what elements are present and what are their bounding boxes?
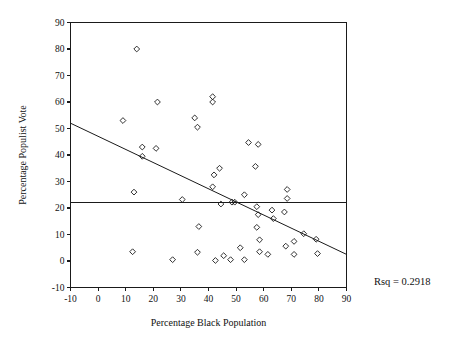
y-tick-label: 20 (55, 203, 65, 213)
data-point-marker (284, 187, 290, 193)
data-point-marker (213, 258, 219, 264)
data-point-marker (283, 243, 289, 249)
plot-frame (71, 23, 347, 288)
y-tick-label: 90 (55, 18, 65, 28)
data-point-marker (291, 251, 297, 257)
annotations-group: Rsq = 0.2918 (374, 276, 430, 287)
data-point-marker (282, 209, 288, 215)
y-tick-label: 70 (55, 71, 65, 81)
data-point-marker (153, 145, 159, 151)
x-tick-label: 80 (314, 294, 324, 304)
data-point-marker (237, 245, 243, 251)
y-tick-label: 60 (55, 97, 65, 107)
x-tick-label: 90 (342, 294, 352, 304)
data-point-marker (241, 192, 247, 198)
data-point-marker (253, 163, 259, 169)
data-point-marker (255, 142, 261, 148)
y-tick-label: 80 (55, 44, 65, 54)
data-point-marker (179, 197, 185, 203)
data-point-marker (257, 237, 263, 243)
x-tick-label: 50 (231, 294, 241, 304)
y-tick-label: -10 (52, 283, 65, 293)
data-point-marker (170, 257, 176, 263)
y-tick-label: 40 (55, 150, 65, 160)
data-point-marker (210, 184, 216, 190)
tick-labels-group: -100102030405060708090-10010203040506070… (52, 18, 352, 304)
x-tick-label: -10 (64, 294, 77, 304)
x-tick-label: 20 (149, 294, 159, 304)
data-point-marker (257, 249, 263, 255)
data-point-marker (246, 140, 252, 146)
x-tick-label: 10 (121, 294, 131, 304)
y-tick-label: 50 (55, 124, 65, 134)
y-tick-label: 30 (55, 177, 65, 187)
data-point-marker (265, 251, 271, 257)
axis-titles-group: Percentage Black PopulationPercentage Po… (17, 105, 266, 328)
data-point-marker (196, 224, 202, 230)
data-point-marker (315, 251, 321, 257)
x-tick-label: 60 (259, 294, 269, 304)
x-tick-label: 40 (204, 294, 214, 304)
data-point-marker (254, 204, 260, 210)
data-point-marker (139, 144, 145, 150)
data-points-group (120, 46, 320, 263)
y-axis-title: Percentage Populist Vote (17, 105, 28, 205)
data-point-marker (269, 207, 275, 213)
data-point-marker (134, 46, 140, 52)
data-point-marker (195, 249, 201, 255)
scatter-plot-figure: -100102030405060708090-10010203040506070… (0, 0, 469, 340)
data-point-marker (218, 201, 224, 207)
data-point-marker (291, 238, 297, 244)
data-point-marker (254, 224, 260, 230)
data-point-marker (211, 172, 217, 178)
data-point-marker (155, 99, 161, 105)
plot-canvas: -100102030405060708090-10010203040506070… (0, 0, 469, 340)
rsq-annotation: Rsq = 0.2918 (374, 276, 430, 287)
data-point-marker (192, 115, 198, 121)
ticks-group (67, 23, 347, 292)
data-point-marker (131, 189, 137, 195)
data-point-marker (241, 257, 247, 263)
axes-group (71, 23, 347, 288)
x-tick-label: 30 (176, 294, 186, 304)
x-axis-title: Percentage Black Population (151, 317, 267, 328)
data-point-marker (217, 165, 223, 171)
data-point-marker (195, 124, 201, 130)
data-point-marker (284, 196, 290, 202)
y-tick-label: 0 (60, 256, 65, 266)
data-point-marker (228, 257, 234, 263)
y-tick-label: 10 (55, 230, 65, 240)
data-point-marker (221, 253, 227, 259)
data-point-marker (130, 249, 136, 255)
x-tick-label: 0 (96, 294, 101, 304)
x-tick-label: 70 (287, 294, 297, 304)
data-point-marker (120, 118, 126, 124)
